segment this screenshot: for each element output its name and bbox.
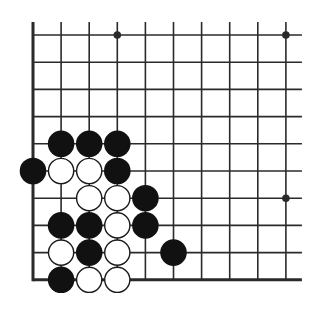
white-stone [105, 240, 130, 265]
white-stone [49, 158, 74, 183]
black-stone [104, 131, 131, 158]
white-stone [77, 186, 102, 211]
go-board [0, 0, 323, 312]
black-stone [132, 185, 159, 212]
white-stone [77, 158, 102, 183]
white-stone [105, 186, 130, 211]
white-stone [49, 240, 74, 265]
black-stone [20, 158, 47, 185]
black-stone [160, 239, 187, 266]
black-stone [48, 267, 75, 294]
black-stone [76, 131, 103, 158]
white-stone [105, 213, 130, 238]
black-stone [48, 131, 75, 158]
white-stone [105, 267, 130, 292]
black-stone [48, 212, 75, 239]
black-stone [132, 212, 159, 239]
black-stone [76, 212, 103, 239]
star-point [282, 31, 290, 39]
black-stone [76, 239, 103, 266]
white-stone [77, 267, 102, 292]
star-point [282, 194, 290, 202]
star-point [114, 31, 122, 39]
stones [20, 131, 187, 294]
black-stone [104, 158, 131, 185]
